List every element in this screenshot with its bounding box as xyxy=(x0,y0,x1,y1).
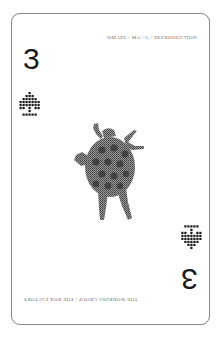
playing-card: 3 OMAEL / MA / I₁ / REPRODUCTION xyxy=(11,13,210,325)
dotted-spade-icon xyxy=(18,92,42,118)
halftone-figure-illustration xyxy=(68,122,150,222)
dotted-spade-icon xyxy=(179,223,203,249)
caption-top: OMAEL / MA / I₁ / REPRODUCTION xyxy=(107,35,197,40)
caption-bottom: THE WORKING GROUP / THE BOX FACTORY xyxy=(23,297,137,302)
rank-top: 3 xyxy=(23,44,40,74)
rank-bottom: 3 xyxy=(181,264,198,294)
